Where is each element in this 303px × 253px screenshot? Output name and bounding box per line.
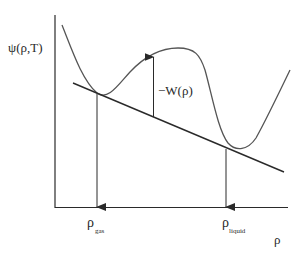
y-axis-label: ψ(ρ,T) bbox=[8, 40, 42, 55]
x-axis-label: ρ bbox=[274, 232, 281, 247]
gas-density-label: ρ bbox=[87, 215, 94, 230]
free-energy-diagram: ψ(ρ,T) −W(ρ) ρ gas ρ liquid ρ bbox=[0, 0, 303, 253]
gas-density-subscript: gas bbox=[95, 227, 105, 235]
liquid-density-label: ρ bbox=[222, 215, 229, 230]
barrier-label: −W(ρ) bbox=[158, 83, 193, 98]
liquid-density-subscript: liquid bbox=[229, 227, 246, 235]
